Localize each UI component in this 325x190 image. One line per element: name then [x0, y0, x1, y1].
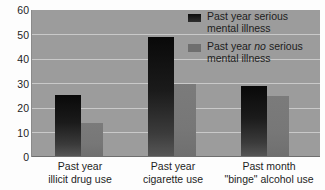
legend-label-no-serious-line2: mental illness [207, 52, 271, 64]
y-tick-label: 20 [3, 103, 29, 113]
legend-label-serious: Past year serious mental illness [207, 11, 288, 34]
x-label-cigarette-line2: cigarette use [143, 173, 203, 185]
x-label-illicit-drug-line1: Past year [58, 160, 102, 172]
legend-label-no-serious-post: serious [266, 40, 303, 52]
legend-item-no-serious: Past year no serious mental illness [188, 41, 320, 64]
legend: Past year serious mental illness Past ye… [188, 11, 320, 71]
bar-chart: 60 50 40 30 20 10 0 Past year serious [0, 0, 325, 190]
bar-noserious-illicit-drug [81, 123, 103, 157]
y-tick-label: 60 [3, 5, 29, 15]
legend-label-serious-line2: mental illness [207, 22, 271, 34]
y-axis-ticks: 60 50 40 30 20 10 0 [0, 10, 29, 157]
bar-serious-illicit-drug [55, 95, 81, 158]
y-tick-label: 40 [3, 54, 29, 64]
x-label-binge-alcohol: Past month "binge" alcohol use [218, 160, 320, 186]
y-tick-label: 50 [3, 30, 29, 40]
x-axis-line [32, 156, 320, 157]
legend-item-serious: Past year serious mental illness [188, 11, 320, 34]
legend-label-no-serious-pre: Past year [207, 40, 254, 52]
x-label-illicit-drug-line2: illicit drug use [48, 173, 112, 185]
x-axis-labels: Past year illicit drug use Past year cig… [32, 160, 320, 190]
legend-label-no-serious-italic: no [254, 40, 266, 52]
y-tick-label: 30 [3, 79, 29, 89]
legend-swatch-light-icon [188, 44, 201, 52]
y-tick-label: 10 [3, 128, 29, 138]
x-label-cigarette-line1: Past year [151, 160, 195, 172]
bar-serious-binge-alcohol [241, 86, 267, 157]
y-tick-label: 0 [3, 152, 29, 162]
bar-noserious-cigarette [174, 84, 196, 158]
x-label-binge-alcohol-line2: "binge" alcohol use [224, 173, 313, 185]
x-label-binge-alcohol-line1: Past month [242, 160, 295, 172]
legend-swatch-dark-icon [188, 14, 201, 22]
legend-label-serious-line1: Past year serious [207, 10, 288, 22]
x-label-cigarette: Past year cigarette use [125, 160, 221, 186]
x-label-illicit-drug: Past year illicit drug use [32, 160, 128, 186]
plot-area: Past year serious mental illness Past ye… [32, 10, 320, 157]
bar-noserious-binge-alcohol [267, 96, 289, 157]
legend-label-no-serious: Past year no serious mental illness [207, 41, 303, 64]
bar-serious-cigarette [148, 37, 174, 157]
